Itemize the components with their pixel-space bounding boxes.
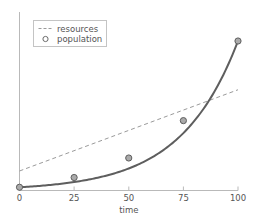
x-tick-labels: 0 25 50 75 100 — [17, 193, 246, 203]
x-tick-label-100: 100 — [230, 193, 246, 203]
data-point-marker — [126, 155, 132, 161]
data-point-marker — [235, 38, 241, 44]
legend-label-resources: resources — [57, 24, 99, 34]
x-tick-marks — [20, 187, 239, 191]
data-point-marker — [180, 118, 186, 124]
x-tick-label-75: 75 — [178, 193, 189, 203]
x-tick-label-0: 0 — [17, 193, 22, 203]
data-point-marker — [71, 174, 77, 180]
x-tick-label-25: 25 — [69, 193, 80, 203]
chart-figure: 0 25 50 75 100 time resources population — [0, 0, 255, 224]
legend-label-population: population — [57, 34, 102, 44]
legend: resources population — [34, 21, 107, 47]
legend-circle-marker-icon — [43, 36, 48, 41]
x-tick-label-50: 50 — [123, 193, 134, 203]
data-point-marker — [16, 184, 22, 190]
chart-canvas: 0 25 50 75 100 time resources population — [0, 0, 255, 224]
series-line-population — [20, 41, 239, 187]
x-axis-title: time — [119, 205, 138, 215]
